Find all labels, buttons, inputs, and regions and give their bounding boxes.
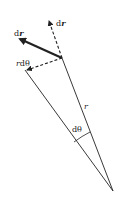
dr-vector-arrow [20, 39, 62, 58]
dr-radial-label: dr [56, 18, 66, 28]
r-dtheta-arrow [27, 58, 62, 70]
polar-displacement-diagram: dr dr rdθ r dθ [0, 0, 133, 210]
radius-line [62, 58, 113, 191]
radius-line-2 [25, 70, 113, 191]
dtheta-label: dθ [72, 125, 82, 134]
r-dtheta-label: rdθ [16, 59, 30, 68]
r-label: r [84, 102, 89, 111]
dr-vector-label: dr [14, 28, 24, 38]
